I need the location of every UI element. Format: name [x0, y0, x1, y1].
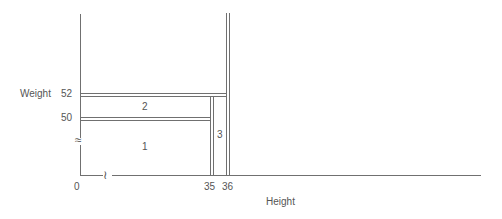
x-tick-35: 35 [204, 181, 215, 193]
y-tick-50: 50 [61, 112, 72, 124]
y-axis-label: Weight [20, 88, 51, 100]
region-1-label: 1 [142, 141, 148, 153]
x-axis-break-icon: ≀ [103, 169, 108, 181]
x-axis-label: Height [266, 196, 295, 208]
region-3-label: 3 [217, 129, 223, 141]
region-2-label: 2 [142, 101, 148, 113]
x-tick-0: 0 [74, 181, 80, 193]
x-tick-36: 36 [222, 181, 233, 193]
y-axis-break-icon: ≈ [75, 134, 82, 146]
y-tick-52: 52 [61, 88, 72, 100]
